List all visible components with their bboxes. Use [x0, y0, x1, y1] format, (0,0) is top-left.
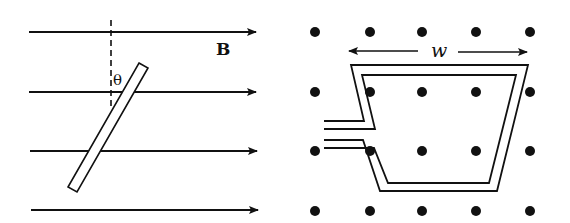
figure-svg: θ B w — [0, 0, 570, 223]
width-label-w: w — [431, 39, 447, 61]
wire-loop — [324, 65, 528, 191]
physics-figure: θ B w — [0, 0, 570, 223]
angle-label-theta: θ — [113, 71, 122, 89]
left-panel: θ B — [29, 20, 258, 210]
field-label-b: B — [216, 39, 230, 59]
right-panel: w — [310, 27, 535, 216]
outer-wire — [324, 65, 528, 191]
tilted-rod — [68, 63, 148, 192]
